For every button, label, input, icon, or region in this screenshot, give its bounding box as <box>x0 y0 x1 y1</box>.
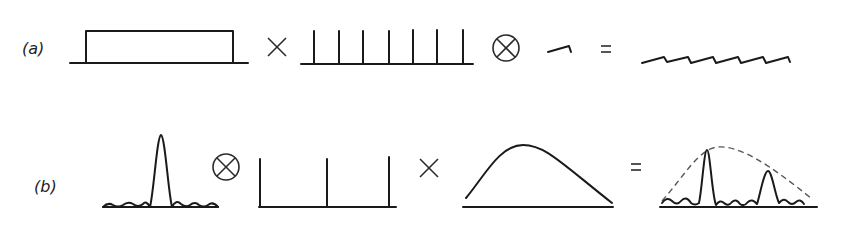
row-b-label: (b) <box>34 177 57 196</box>
dirac-comb-b <box>259 157 396 207</box>
sawtooth-train <box>642 57 790 63</box>
convolve-icon <box>493 35 519 61</box>
row-b: (b) <box>34 135 817 207</box>
dirac-comb-a <box>301 30 473 64</box>
dashed-envelope <box>662 147 812 201</box>
convolve-icon <box>213 154 239 180</box>
multiply-icon <box>268 38 286 56</box>
equals-icon <box>631 164 641 170</box>
rectangle-function <box>70 31 248 63</box>
small-sawtooth-kernel <box>548 46 571 52</box>
envelope-function <box>463 145 613 207</box>
multiply-icon <box>420 159 438 177</box>
result-peaks <box>660 147 817 207</box>
row-a-label: (a) <box>22 39 44 58</box>
row-a: (a) <box>22 30 790 64</box>
equals-icon <box>601 46 611 52</box>
diagram-canvas: (a) <box>0 0 853 234</box>
sinc-function <box>103 135 218 207</box>
